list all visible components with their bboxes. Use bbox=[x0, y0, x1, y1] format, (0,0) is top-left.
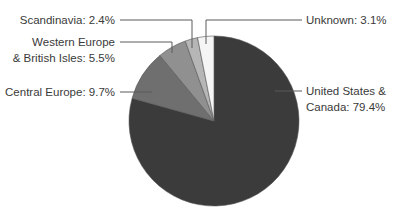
pie-slices bbox=[129, 36, 299, 206]
label-western-europe-line1: Western Europe bbox=[32, 36, 115, 48]
leader-line-western-europe bbox=[120, 42, 172, 53]
label-us-canada-line2: Canada: 79.4% bbox=[306, 101, 385, 113]
pie-chart: Scandinavia: 2.4% Western Europe & Briti… bbox=[0, 0, 396, 220]
label-central-europe: Central Europe: 9.7% bbox=[5, 86, 115, 98]
label-scandinavia: Scandinavia: 2.4% bbox=[20, 14, 115, 26]
label-western-europe-line2: & British Isles: 5.5% bbox=[13, 52, 115, 64]
label-us-canada-line1: United States & bbox=[306, 85, 386, 97]
label-unknown: Unknown: 3.1% bbox=[306, 14, 387, 26]
